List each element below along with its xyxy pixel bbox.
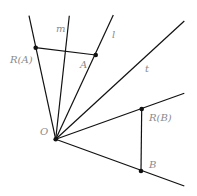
label-l: l	[112, 29, 115, 40]
label-t: t	[145, 63, 150, 74]
point-RB	[139, 107, 144, 112]
ray-through-B	[56, 139, 185, 186]
label-RA: R(A)	[9, 54, 33, 65]
label-A: A	[79, 59, 87, 70]
label-O: O	[40, 126, 48, 137]
line-m	[56, 16, 70, 140]
point-B	[139, 169, 144, 174]
point-A	[93, 53, 98, 58]
label-RB: R(B)	[148, 112, 172, 123]
point-RA	[33, 45, 38, 50]
label-m: m	[56, 23, 65, 34]
diagram-canvas: m l t R(A) A O R(B) B	[0, 0, 197, 196]
ray-through-RA	[29, 16, 56, 140]
segment-RB-B	[141, 109, 142, 171]
point-O	[53, 137, 58, 142]
label-B: B	[148, 159, 156, 170]
